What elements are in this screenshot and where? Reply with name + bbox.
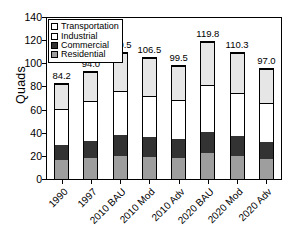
- x-axis-label-slot: 1990: [47, 182, 76, 238]
- bar-segment-commercial[interactable]: [231, 136, 244, 156]
- chart-container: 140120100806040200 Quads 84.294.0110.510…: [0, 0, 298, 241]
- bar-segment-transportation[interactable]: [84, 72, 97, 101]
- x-axis-tick-mark: [266, 180, 267, 184]
- legend-swatch-transportation: [51, 23, 58, 30]
- legend-item-residential[interactable]: Residential: [51, 50, 119, 59]
- bar-segment-residential[interactable]: [201, 153, 214, 179]
- bar-segment-commercial[interactable]: [260, 142, 273, 159]
- stacked-bar[interactable]: [259, 68, 274, 180]
- bar-segment-transportation[interactable]: [55, 84, 68, 110]
- bar-segment-residential[interactable]: [231, 156, 244, 179]
- stacked-bar[interactable]: [230, 52, 245, 180]
- legend-swatch-industrial: [51, 33, 58, 40]
- stacked-bar[interactable]: [142, 57, 157, 180]
- bar-segment-transportation[interactable]: [231, 53, 244, 92]
- bar-segment-commercial[interactable]: [201, 132, 214, 154]
- legend-item-transportation[interactable]: Transportation: [51, 22, 119, 31]
- bar-segment-transportation[interactable]: [260, 69, 273, 103]
- bar-segment-residential[interactable]: [260, 159, 273, 179]
- stacked-bar[interactable]: [54, 83, 69, 180]
- x-axis-tick-mark: [208, 180, 209, 184]
- x-axis-tick-mark: [237, 180, 238, 184]
- bar-segment-commercial[interactable]: [84, 141, 97, 158]
- x-axis-tick-mark: [91, 180, 92, 184]
- bar-segment-residential[interactable]: [55, 160, 68, 179]
- y-axis-tick-label: 120: [14, 35, 42, 45]
- bar-group[interactable]: 99.5: [164, 18, 193, 180]
- bar-segment-residential[interactable]: [172, 158, 185, 179]
- bar-segment-transportation[interactable]: [172, 66, 185, 100]
- bar-group[interactable]: 119.8: [193, 18, 222, 180]
- bar-segment-industrial[interactable]: [231, 93, 244, 136]
- bar-segment-industrial[interactable]: [172, 100, 185, 139]
- x-axis-tick-mark: [179, 180, 180, 184]
- bar-segment-transportation[interactable]: [201, 42, 214, 85]
- bar-segment-commercial[interactable]: [114, 135, 127, 156]
- bar-segment-industrial[interactable]: [55, 109, 68, 145]
- x-axis-tick-mark: [120, 180, 121, 184]
- x-axis-tick-mark: [62, 180, 63, 184]
- chart-legend: TransportationIndustrialCommercialReside…: [48, 19, 123, 63]
- legend-swatch-commercial: [51, 42, 58, 49]
- bar-segment-residential[interactable]: [114, 156, 127, 179]
- bar-group[interactable]: 110.3: [223, 18, 252, 180]
- bar-segment-industrial[interactable]: [84, 101, 97, 141]
- y-axis-tick-label: 0: [14, 174, 42, 184]
- x-axis-label-slot: 2020 Adv: [252, 182, 281, 238]
- bar-segment-commercial[interactable]: [172, 139, 185, 158]
- bar-segment-residential[interactable]: [84, 158, 97, 179]
- x-axis-labels: 199019972010 BAU2010 Mod2010 Adv2020 BAU…: [47, 182, 281, 238]
- y-axis-tick-label: 20: [14, 151, 42, 161]
- y-axis-title: Quads: [14, 55, 28, 115]
- legend-swatch-residential: [51, 51, 58, 58]
- bar-total-label: 84.2: [52, 71, 71, 81]
- bar-segment-commercial[interactable]: [55, 145, 68, 160]
- y-axis-tick-label: 140: [14, 12, 42, 22]
- x-axis-tick-label: 1990: [46, 186, 70, 210]
- bar-total-label: 110.3: [226, 40, 249, 50]
- bar-group[interactable]: 97.0: [252, 18, 281, 180]
- bar-segment-commercial[interactable]: [143, 137, 156, 157]
- y-axis-tick-label: 40: [14, 128, 42, 138]
- bar-segment-industrial[interactable]: [260, 103, 273, 142]
- bar-segment-transportation[interactable]: [143, 58, 156, 96]
- bar-segment-industrial[interactable]: [143, 96, 156, 138]
- bar-total-label: 99.5: [169, 53, 188, 63]
- bar-total-label: 119.8: [196, 29, 219, 39]
- bar-segment-industrial[interactable]: [201, 85, 214, 132]
- stacked-bar[interactable]: [113, 52, 128, 180]
- legend-label: Residential: [61, 50, 106, 59]
- bar-total-label: 106.5: [137, 45, 161, 55]
- x-axis-tick-mark: [149, 180, 150, 184]
- stacked-bar[interactable]: [200, 41, 215, 180]
- bar-segment-industrial[interactable]: [114, 91, 127, 135]
- stacked-bar[interactable]: [83, 71, 98, 180]
- stacked-bar[interactable]: [171, 65, 186, 180]
- legend-label: Transportation: [61, 22, 119, 31]
- bar-segment-residential[interactable]: [143, 157, 156, 179]
- bar-total-label: 97.0: [257, 56, 276, 66]
- bar-group[interactable]: 106.5: [135, 18, 164, 180]
- x-axis-tick-label: 1997: [75, 186, 99, 210]
